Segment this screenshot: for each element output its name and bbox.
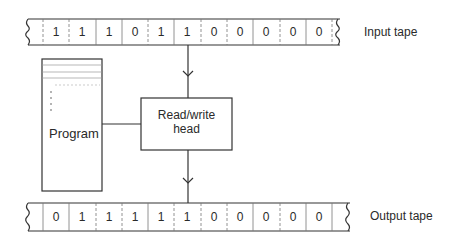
output-cell: 0 — [306, 210, 332, 224]
input-tape-label: Input tape — [364, 25, 417, 39]
output-cell: 0 — [201, 210, 227, 224]
input-cell: 0 — [253, 25, 279, 39]
input-cell: 1 — [43, 25, 69, 39]
tape-break-left-icon — [26, 203, 30, 231]
input-cell: 0 — [201, 25, 227, 39]
input-cell: 1 — [96, 25, 122, 39]
program-label: Program — [49, 126, 99, 141]
head-label: Read/write head — [141, 108, 232, 136]
input-cell: 1 — [69, 25, 95, 39]
input-cell: 0 — [122, 25, 148, 39]
input-cell: 0 — [280, 25, 306, 39]
input-cell: 0 — [306, 25, 332, 39]
output-cell: 0 — [253, 210, 279, 224]
head-label-line1: Read/write — [141, 108, 232, 122]
output-cell: 1 — [69, 210, 95, 224]
output-cell: 0 — [227, 210, 253, 224]
output-cell: 1 — [174, 210, 200, 224]
program-box — [42, 59, 102, 191]
input-cell: 1 — [174, 25, 200, 39]
output-cell: 1 — [122, 210, 148, 224]
output-cell: 0 — [280, 210, 306, 224]
output-cell: 0 — [43, 210, 69, 224]
tape-break-right-icon — [336, 19, 340, 45]
tape-break-left-icon — [26, 19, 30, 45]
output-tape-label: Output tape — [370, 209, 433, 223]
input-cell: 1 — [148, 25, 174, 39]
input-cell: 0 — [227, 25, 253, 39]
tape-break-right-icon — [346, 203, 350, 231]
output-cell: 1 — [96, 210, 122, 224]
output-cell: 1 — [148, 210, 174, 224]
head-label-line2: head — [141, 122, 232, 136]
